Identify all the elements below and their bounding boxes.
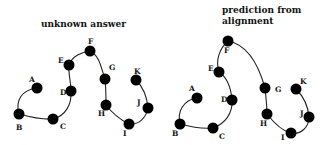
node-f xyxy=(223,36,234,47)
panel-prediction-from-alignment: prediction fromalignmentABCDEFGHIJK xyxy=(172,5,315,142)
node-label-c: C xyxy=(60,122,66,131)
node-a xyxy=(32,83,43,94)
node-label-k: K xyxy=(134,67,141,76)
backbone-curve xyxy=(179,41,309,133)
node-label-g: G xyxy=(275,85,281,94)
node-k xyxy=(131,75,142,86)
node-e xyxy=(214,67,225,78)
node-label-e: E xyxy=(208,64,214,73)
panel-title: prediction from xyxy=(222,5,302,15)
node-f xyxy=(85,46,96,57)
node-label-d: D xyxy=(221,95,228,104)
protein-fold-diagram: unknown answerABCDEFGHIJK prediction fro… xyxy=(0,0,326,145)
node-h xyxy=(262,109,273,120)
node-j xyxy=(143,103,154,114)
node-label-c: C xyxy=(219,132,225,141)
node-label-k: K xyxy=(300,77,307,86)
node-label-e: E xyxy=(58,56,64,65)
node-i xyxy=(124,119,135,130)
node-g xyxy=(260,83,271,94)
node-label-h: H xyxy=(98,109,105,118)
node-label-j: J xyxy=(299,109,304,118)
node-label-f: F xyxy=(224,46,230,55)
node-label-a: A xyxy=(28,75,35,84)
node-i xyxy=(286,128,297,139)
node-label-j: J xyxy=(136,98,141,107)
node-d xyxy=(227,95,238,106)
panel-title: alignment xyxy=(222,16,274,26)
node-c xyxy=(208,123,219,134)
node-label-g: G xyxy=(109,63,115,72)
node-label-i: I xyxy=(123,129,127,138)
node-label-d: D xyxy=(60,88,67,97)
node-b xyxy=(175,119,186,130)
node-c xyxy=(48,114,59,125)
node-label-h: H xyxy=(260,119,267,128)
node-d xyxy=(66,86,77,97)
panel-title: unknown answer xyxy=(41,19,126,29)
node-g xyxy=(100,74,111,85)
node-label-i: I xyxy=(281,133,285,142)
node-label-a: A xyxy=(188,84,195,93)
panel-unknown-answer: unknown answerABCDEFGHIJK xyxy=(14,19,154,138)
node-a xyxy=(192,93,203,104)
node-b xyxy=(14,109,25,120)
node-label-b: B xyxy=(172,129,178,138)
node-e xyxy=(64,60,75,71)
node-label-b: B xyxy=(16,123,22,132)
node-j xyxy=(304,112,315,123)
node-label-f: F xyxy=(88,37,94,46)
